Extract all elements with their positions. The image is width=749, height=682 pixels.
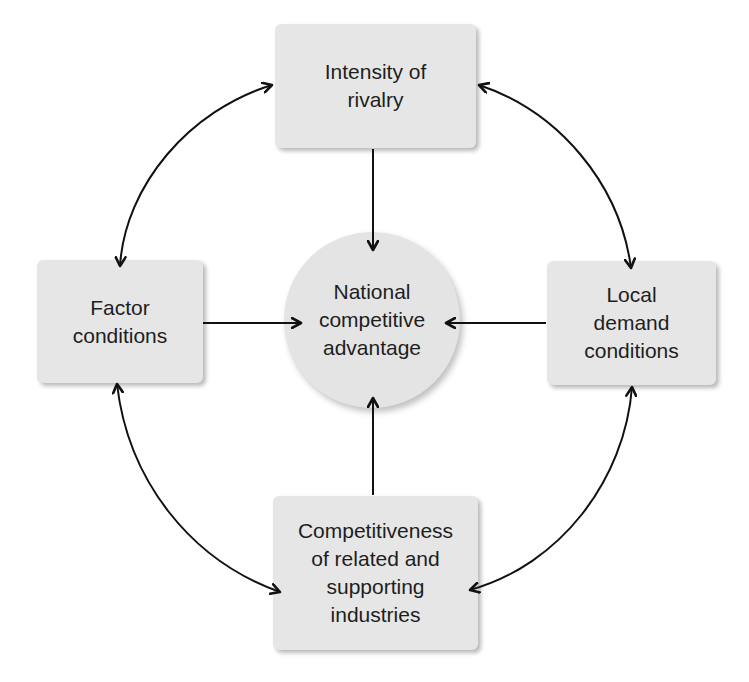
- arrow-demand-industries: [470, 387, 632, 590]
- node-national-competitive-advantage: National competitive advantage: [284, 232, 460, 408]
- arrow-rivalry-factor: [120, 85, 272, 266]
- node-local-demand-conditions: Local demand conditions: [547, 261, 716, 385]
- node-intensity-of-rivalry: Intensity of rivalry: [275, 24, 476, 148]
- node-related-supporting-industries: Competitiveness of related and supportin…: [273, 496, 478, 650]
- node-label: Competitiveness of related and supportin…: [298, 517, 453, 629]
- node-label: National competitive advantage: [319, 278, 425, 362]
- arrow-factor-industries: [117, 384, 280, 592]
- node-factor-conditions: Factor conditions: [37, 260, 203, 383]
- porter-diamond-diagram: Intensity of rivalry Factor conditions N…: [0, 0, 749, 682]
- node-label: Intensity of rivalry: [325, 58, 427, 114]
- node-label: Local demand conditions: [584, 281, 679, 365]
- arrow-rivalry-demand: [479, 85, 631, 268]
- node-label: Factor conditions: [73, 294, 168, 350]
